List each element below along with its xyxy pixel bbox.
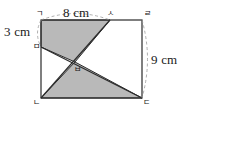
dimension-label-top: 8 cm: [63, 6, 89, 19]
shaded-region-upper-left: [41, 20, 110, 62]
vertex-label-n: ㄴ: [33, 99, 40, 107]
vertex-label-m: ㅁ: [33, 43, 40, 51]
diagram-stage: 8 cm 3 cm 9 cm ㄱ ㅅ ㄹ ㅁ ㅂ ㄴ ㄷ ( ): [0, 0, 244, 151]
vertex-label-d: ㄷ: [143, 99, 150, 107]
vertex-label-b: ㅂ: [74, 66, 81, 74]
dimension-label-right: 9 cm: [151, 53, 177, 66]
answer-row: ( ): [0, 116, 244, 151]
dimension-label-left: 3 cm: [4, 25, 30, 38]
vertex-label-s: ㅅ: [107, 10, 114, 18]
vertex-label-a: ㄱ: [36, 10, 43, 18]
vertex-label-r: ㄹ: [144, 10, 151, 18]
arc-right-measure: [142, 20, 148, 98]
